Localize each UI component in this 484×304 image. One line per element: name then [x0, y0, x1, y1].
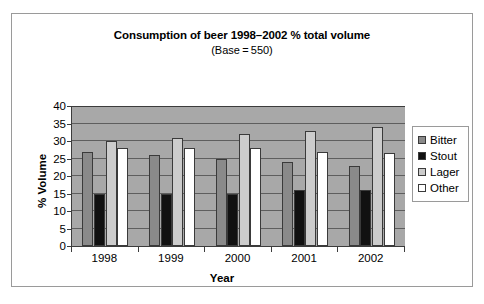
bar-bitter-1998: [82, 152, 93, 247]
legend-label: Lager: [430, 166, 459, 178]
legend-swatch-icon: [418, 152, 426, 160]
bar-group: [139, 106, 206, 246]
bar-bitter-2002: [349, 166, 360, 247]
bar-stout-2000: [227, 194, 238, 247]
bar-lager-1998: [106, 141, 117, 246]
y-axis-tick-label: 0: [44, 241, 66, 252]
y-axis-tick-label: 40: [44, 101, 66, 112]
bar-stout-1999: [161, 194, 172, 247]
legend-label: Bitter: [430, 134, 457, 146]
x-axis-tick-labels: 19981999200020012002: [71, 252, 404, 268]
legend: BitterStoutLagerOther: [412, 126, 469, 202]
bar-stout-2002: [360, 190, 371, 246]
y-axis-tick-label: 35: [44, 118, 66, 129]
x-axis-tick-label: 1998: [74, 252, 134, 264]
bar-other-1999: [184, 148, 195, 246]
x-axis-tick-label: 1999: [141, 252, 201, 264]
bar-other-2001: [317, 152, 328, 247]
title-block: Consumption of beer 1998–2002 % total vo…: [12, 28, 472, 57]
bar-lager-1999: [172, 138, 183, 247]
legend-label: Other: [430, 182, 459, 194]
bar-stout-2001: [294, 190, 305, 246]
legend-item-stout[interactable]: Stout: [418, 148, 464, 164]
bar-lager-2002: [372, 127, 383, 246]
x-axis-tick-mark: [404, 247, 405, 252]
bar-lager-2000: [239, 134, 250, 246]
bar-group: [338, 106, 405, 246]
bar-bitter-2001: [282, 162, 293, 246]
y-axis-tick-label: 5: [44, 223, 66, 234]
bar-stout-1998: [94, 194, 105, 247]
bar-group: [205, 106, 272, 246]
bar-group: [72, 106, 139, 246]
x-axis-tick-label: 2001: [274, 252, 334, 264]
y-axis-tick-labels: 0510152025303540: [42, 106, 66, 247]
y-axis-tick-label: 30: [44, 136, 66, 147]
bar-bitter-1999: [149, 155, 160, 246]
y-axis-tick-label: 10: [44, 206, 66, 217]
chart-figure: Consumption of beer 1998–2002 % total vo…: [11, 13, 473, 287]
bar-bitter-2000: [216, 159, 227, 247]
legend-item-bitter[interactable]: Bitter: [418, 132, 464, 148]
y-axis-tick-label: 15: [44, 188, 66, 199]
y-axis-tick-label: 20: [44, 171, 66, 182]
legend-swatch-icon: [418, 168, 426, 176]
legend-swatch-icon: [418, 136, 426, 144]
chart-subtitle: (Base = 550): [12, 43, 472, 57]
legend-item-other[interactable]: Other: [418, 180, 464, 196]
y-axis-tick-label: 25: [44, 153, 66, 164]
legend-swatch-icon: [418, 184, 426, 192]
legend-label: Stout: [430, 150, 457, 162]
plot-wrapper: [71, 106, 404, 246]
bar-group: [272, 106, 339, 246]
plot-area: [71, 106, 405, 247]
bar-other-2002: [384, 153, 395, 246]
x-axis-title: Year: [57, 272, 387, 284]
bar-other-1998: [117, 148, 128, 246]
chart-title: Consumption of beer 1998–2002 % total vo…: [12, 28, 472, 42]
x-axis-tick-label: 2000: [208, 252, 268, 264]
bar-other-2000: [250, 148, 261, 246]
bar-lager-2001: [305, 131, 316, 247]
x-axis-tick-label: 2002: [341, 252, 401, 264]
legend-item-lager[interactable]: Lager: [418, 164, 464, 180]
